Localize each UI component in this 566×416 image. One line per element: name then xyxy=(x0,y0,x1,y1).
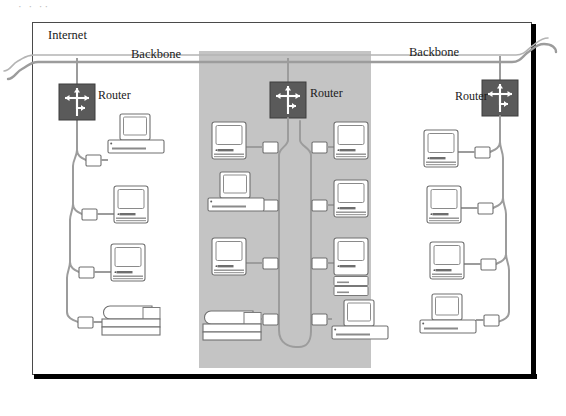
tap-l4 xyxy=(78,317,93,328)
tap-mr4 xyxy=(312,314,327,325)
dev-l1 xyxy=(108,114,164,153)
router-label-left: Router xyxy=(98,88,131,103)
internet-area-label: Internet xyxy=(48,28,87,43)
dev-mr1 xyxy=(334,122,368,159)
tap-l1 xyxy=(86,155,101,166)
tap-r4 xyxy=(484,315,499,326)
tap-mr2 xyxy=(312,200,327,211)
tap-r1 xyxy=(475,147,490,158)
dev-l2 xyxy=(114,186,148,223)
tap-ml2 xyxy=(263,200,278,211)
router-left-icon xyxy=(59,84,95,120)
dev-ml2 xyxy=(208,172,264,211)
network-diagram xyxy=(0,0,566,416)
segment-middle xyxy=(203,58,388,347)
tap-l2 xyxy=(82,209,97,220)
router-mid-icon xyxy=(270,82,306,118)
tap-mr1 xyxy=(312,142,327,153)
tap-ml4 xyxy=(263,314,278,325)
tap-ml1 xyxy=(263,142,278,153)
backbone-label-right: Backbone xyxy=(409,45,459,60)
tap-r2 xyxy=(478,203,493,214)
dev-mr3 xyxy=(334,238,368,296)
dev-l3 xyxy=(111,244,145,281)
dev-r2 xyxy=(427,186,461,223)
dev-mr2 xyxy=(334,180,368,217)
dev-r1 xyxy=(424,130,458,167)
dev-ml3 xyxy=(212,238,246,275)
tap-ml3 xyxy=(263,258,278,269)
tap-l3 xyxy=(79,267,94,278)
dev-l4 xyxy=(102,306,160,335)
dev-mr4 xyxy=(332,300,388,339)
backbone-label-left: Backbone xyxy=(131,47,181,62)
tap-mr3 xyxy=(312,258,327,269)
dev-r3 xyxy=(430,242,464,279)
router-label-right: Router xyxy=(455,89,488,104)
figure-page: · · ·· xyxy=(0,0,566,416)
dev-r4 xyxy=(420,294,476,333)
tap-r3 xyxy=(481,259,496,270)
dev-ml1 xyxy=(212,122,246,159)
dev-ml4 xyxy=(203,311,261,340)
backbone-trunk xyxy=(4,38,556,79)
router-label-middle: Router xyxy=(310,86,343,101)
